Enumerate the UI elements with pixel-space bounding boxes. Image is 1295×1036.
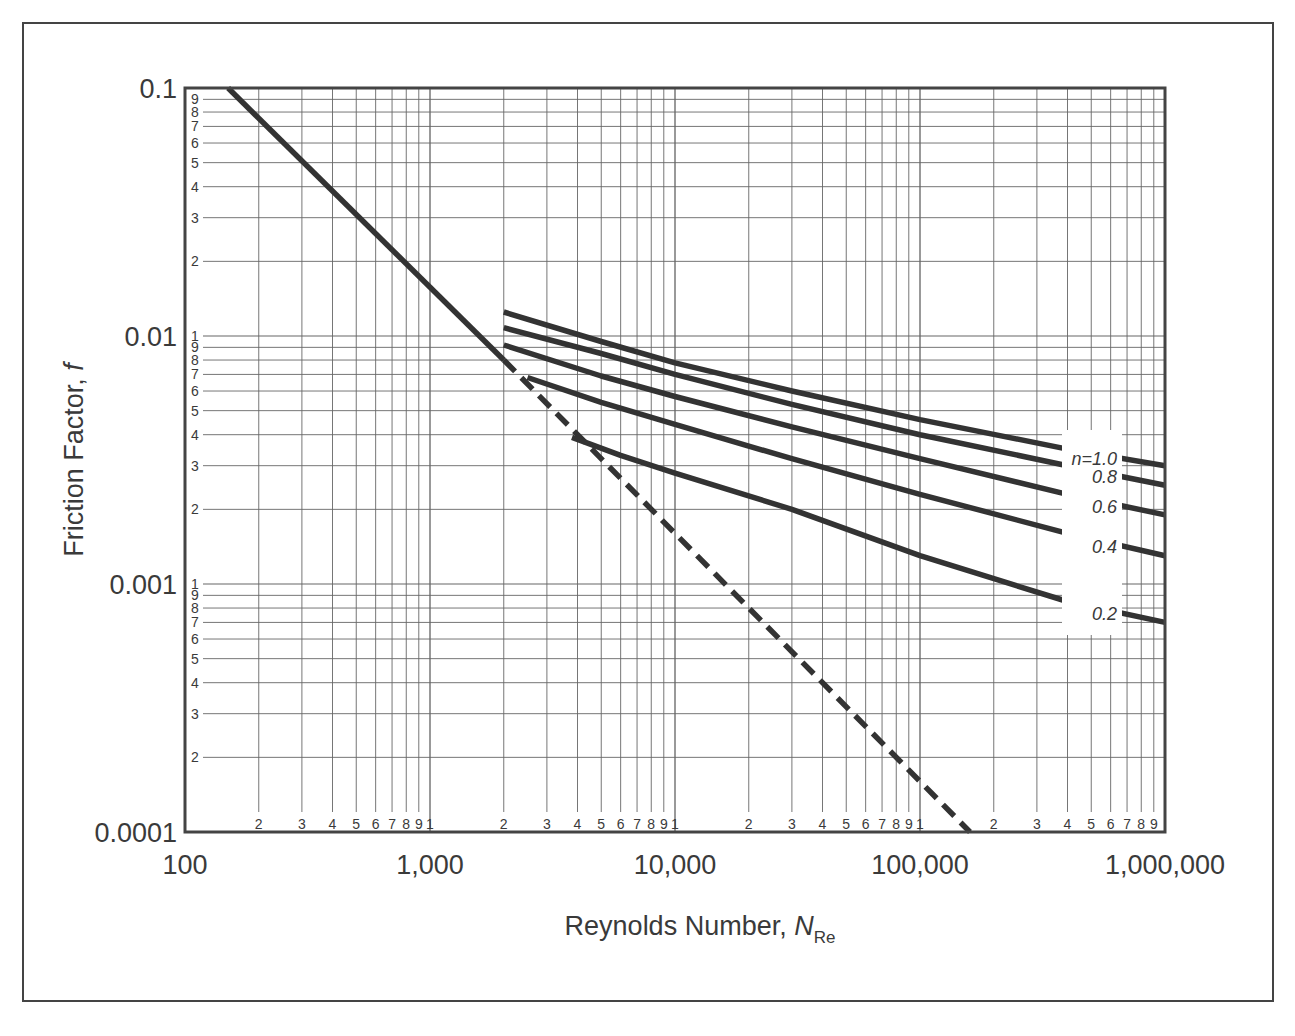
y-minor-tick-label: 2 bbox=[191, 501, 199, 517]
x-minor-tick-label: 9 bbox=[415, 816, 423, 832]
y-axis-label: Friction Factor, f bbox=[59, 361, 89, 557]
x-major-tick-label: 1,000,000 bbox=[1105, 850, 1225, 880]
x-minor-tick-label: 9 bbox=[660, 816, 668, 832]
x-major-tick-label: 1,000 bbox=[396, 850, 464, 880]
x-minor-tick-label: 3 bbox=[788, 816, 796, 832]
x-minor-tick-label: 9 bbox=[905, 816, 913, 832]
curve-label: 0.4 bbox=[1092, 537, 1117, 557]
x-minor-tick-label: 2 bbox=[745, 816, 753, 832]
x-minor-tick-label: 5 bbox=[842, 816, 850, 832]
x-minor-tick-label: 4 bbox=[329, 816, 337, 832]
x-minor-tick-label: 7 bbox=[878, 816, 886, 832]
grid-lines bbox=[203, 88, 1165, 832]
x-minor-tick-label: 2 bbox=[255, 816, 263, 832]
y-minor-tick-label: 7 bbox=[191, 118, 199, 134]
x-minor-tick-label: 3 bbox=[1033, 816, 1041, 832]
y-minor-tick-label: 4 bbox=[191, 427, 199, 443]
y-minor-tick-label: 4 bbox=[191, 179, 199, 195]
y-minor-tick-label: 5 bbox=[191, 651, 199, 667]
data-series bbox=[228, 88, 1165, 832]
x-minor-tick-label: 6 bbox=[1107, 816, 1115, 832]
x-minor-tick-label: 7 bbox=[1123, 816, 1131, 832]
y-minor-tick-label: 7 bbox=[191, 614, 199, 630]
y-minor-tick-label: 6 bbox=[191, 383, 199, 399]
x-minor-tick-label: 2 bbox=[990, 816, 998, 832]
x-minor-tick-label: 8 bbox=[892, 816, 900, 832]
y-minor-tick-label: 2 bbox=[191, 749, 199, 765]
y-minor-tick-label: 3 bbox=[191, 210, 199, 226]
x-minor-tick-label: 5 bbox=[352, 816, 360, 832]
curve-label-area: n=1.00.80.60.40.2 bbox=[1062, 430, 1122, 635]
x-minor-tick-label: 6 bbox=[617, 816, 625, 832]
y-major-tick-label: 0.1 bbox=[139, 74, 177, 104]
y-minor-tick-label: 2 bbox=[191, 253, 199, 269]
x-minor-tick-label: 7 bbox=[633, 816, 641, 832]
x-minor-tick-label: 5 bbox=[597, 816, 605, 832]
y-minor-tick-label: 5 bbox=[191, 155, 199, 171]
y-major-tick-label: 0.0001 bbox=[94, 818, 177, 848]
y-minor-tick-label: 6 bbox=[191, 135, 199, 151]
x-minor-tick-label: 8 bbox=[1137, 816, 1145, 832]
x-axis-label: Reynolds Number, NRe bbox=[565, 911, 836, 947]
x-minor-tick-label: 6 bbox=[372, 816, 380, 832]
y-major-tick-label: 0.001 bbox=[109, 570, 177, 600]
curve-label: 0.8 bbox=[1092, 467, 1117, 487]
x-minor-tick-label: 9 bbox=[1150, 816, 1158, 832]
x-minor-tick-label: 8 bbox=[402, 816, 410, 832]
y-major-tick-label: 0.01 bbox=[124, 322, 177, 352]
x-minor-tick-label: 3 bbox=[543, 816, 551, 832]
x-minor-tick-label: 2 bbox=[500, 816, 508, 832]
x-major-tick-label: 100 bbox=[162, 850, 207, 880]
y-minor-tick-label: 3 bbox=[191, 458, 199, 474]
y-minor-tick-label: 3 bbox=[191, 706, 199, 722]
y-minor-tick-label: 7 bbox=[191, 366, 199, 382]
x-minor-tick-label: 6 bbox=[862, 816, 870, 832]
x-minor-tick-label: 1 bbox=[671, 816, 679, 832]
y-minor-tick-label: 6 bbox=[191, 631, 199, 647]
x-major-tick-label: 100,000 bbox=[871, 850, 969, 880]
curve-label: n=1.0 bbox=[1071, 449, 1117, 469]
friction-factor-chart: 2345678912345678912345678912345678919876… bbox=[0, 0, 1295, 1036]
y-minor-tick-label: 4 bbox=[191, 675, 199, 691]
major-tick-labels: 1001,00010,000100,0001,000,0000.10.010.0… bbox=[94, 74, 1225, 880]
x-minor-tick-label: 5 bbox=[1087, 816, 1095, 832]
x-minor-tick-label: 8 bbox=[647, 816, 655, 832]
series-laminar-16-n-re- bbox=[228, 88, 504, 360]
x-minor-tick-label: 1 bbox=[426, 816, 434, 832]
y-minor-tick-label: 5 bbox=[191, 403, 199, 419]
x-minor-tick-label: 3 bbox=[298, 816, 306, 832]
x-minor-tick-label: 4 bbox=[1064, 816, 1072, 832]
x-minor-tick-label: 7 bbox=[388, 816, 396, 832]
curve-label: 0.6 bbox=[1092, 497, 1118, 517]
x-minor-tick-label: 4 bbox=[819, 816, 827, 832]
x-minor-tick-label: 4 bbox=[574, 816, 582, 832]
x-minor-tick-label: 1 bbox=[916, 816, 924, 832]
curve-label: 0.2 bbox=[1092, 604, 1117, 624]
x-major-tick-label: 10,000 bbox=[634, 850, 717, 880]
